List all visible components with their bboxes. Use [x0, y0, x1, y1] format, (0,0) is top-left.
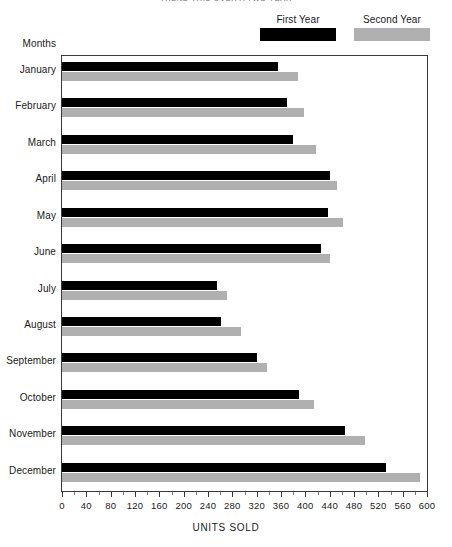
x-axis-minor-tick-140	[147, 492, 148, 495]
bar-group	[62, 317, 427, 337]
bar-october-second-year	[62, 400, 314, 409]
x-axis-tick-label-600: 600	[407, 500, 447, 511]
category-label-july: July	[0, 283, 56, 294]
bar-january-second-year	[62, 72, 298, 81]
x-axis-tick-80	[111, 492, 112, 497]
bar-group	[62, 171, 427, 191]
bar-group	[62, 62, 427, 82]
x-axis-minor-tick-580	[415, 492, 416, 495]
bar-group	[62, 281, 427, 301]
bar-april-second-year	[62, 181, 337, 190]
bar-december-second-year	[62, 473, 420, 482]
bar-february-first-year	[62, 98, 287, 107]
x-axis-tick-440	[330, 492, 331, 497]
bar-august-second-year	[62, 327, 241, 336]
bar-may-first-year	[62, 208, 328, 217]
category-label-june: June	[0, 246, 56, 257]
bar-group	[62, 244, 427, 264]
bar-august-first-year	[62, 317, 221, 326]
x-axis-minor-tick-260	[220, 492, 221, 495]
bar-group	[62, 98, 427, 118]
legend-swatch-first-year	[260, 28, 336, 41]
x-axis-tick-40	[86, 492, 87, 497]
x-axis-tick-480	[354, 492, 355, 497]
legend-item-first-year: First Year	[260, 14, 336, 41]
bar-group	[62, 426, 427, 446]
x-axis-tick-160	[159, 492, 160, 497]
bar-may-second-year	[62, 218, 343, 227]
bar-december-first-year	[62, 463, 386, 472]
x-axis-tick-600	[427, 492, 428, 497]
x-axis-tick-120	[135, 492, 136, 497]
bar-july-second-year	[62, 291, 227, 300]
bar-group	[62, 135, 427, 155]
bar-june-first-year	[62, 244, 321, 253]
chart-legend: First Year Second Year	[258, 14, 438, 48]
bar-february-second-year	[62, 108, 304, 117]
category-label-august: August	[0, 319, 56, 330]
x-axis-tick-320	[257, 492, 258, 497]
plot-area	[62, 56, 427, 491]
x-axis-minor-tick-500	[366, 492, 367, 495]
bar-group	[62, 390, 427, 410]
y-axis-title: Months	[0, 38, 56, 49]
bar-june-second-year	[62, 254, 330, 263]
category-label-february: February	[0, 100, 56, 111]
legend-swatch-second-year	[354, 28, 430, 41]
x-axis-tick-0	[62, 492, 63, 497]
x-axis-minor-tick-60	[99, 492, 100, 495]
category-label-march: March	[0, 137, 56, 148]
x-axis-tick-360	[281, 492, 282, 497]
bar-april-first-year	[62, 171, 330, 180]
x-axis-tick-400	[305, 492, 306, 497]
category-label-may: May	[0, 210, 56, 221]
x-axis-minor-tick-300	[245, 492, 246, 495]
x-axis-title: UNITS SOLD	[0, 522, 452, 533]
x-axis-tick-560	[403, 492, 404, 497]
bar-july-first-year	[62, 281, 217, 290]
bar-march-first-year	[62, 135, 293, 144]
plot-frame	[61, 55, 428, 492]
category-label-december: December	[0, 465, 56, 476]
legend-item-second-year: Second Year	[354, 14, 430, 41]
x-axis-tick-200	[184, 492, 185, 497]
x-axis-minor-tick-380	[293, 492, 294, 495]
bar-november-first-year	[62, 426, 345, 435]
bar-january-first-year	[62, 62, 278, 71]
x-axis-minor-tick-460	[342, 492, 343, 495]
bar-group	[62, 353, 427, 373]
x-axis-tick-520	[378, 492, 379, 497]
x-axis-minor-tick-180	[172, 492, 173, 495]
bar-group	[62, 208, 427, 228]
category-label-november: November	[0, 428, 56, 439]
legend-label-second-year: Second Year	[354, 14, 430, 26]
x-axis-tick-240	[208, 492, 209, 497]
x-axis-minor-tick-220	[196, 492, 197, 495]
bar-september-second-year	[62, 363, 267, 372]
legend-label-first-year: First Year	[260, 14, 336, 26]
bar-september-first-year	[62, 353, 257, 362]
x-axis-minor-tick-100	[123, 492, 124, 495]
x-axis-minor-tick-420	[318, 492, 319, 495]
x-axis-minor-tick-340	[269, 492, 270, 495]
x-axis-tick-280	[232, 492, 233, 497]
chart-title: TREND THIS OVER A TWO YEAR	[0, 0, 452, 3]
category-label-april: April	[0, 173, 56, 184]
category-label-january: January	[0, 64, 56, 75]
bar-november-second-year	[62, 436, 365, 445]
x-axis-minor-tick-20	[74, 492, 75, 495]
category-label-october: October	[0, 392, 56, 403]
bar-group	[62, 463, 427, 483]
x-axis-minor-tick-540	[391, 492, 392, 495]
category-label-september: September	[0, 355, 56, 366]
bar-march-second-year	[62, 145, 316, 154]
bar-october-first-year	[62, 390, 299, 399]
